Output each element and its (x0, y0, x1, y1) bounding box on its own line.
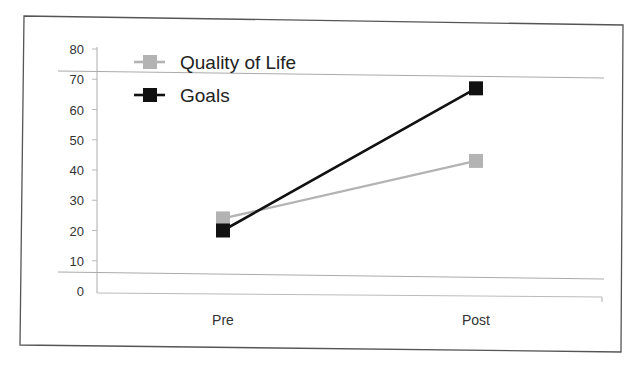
data-point-marker (216, 211, 230, 225)
series-layer (216, 81, 483, 237)
y-tick-label: 10 (70, 254, 84, 269)
y-tick-label: 80 (70, 42, 84, 57)
chart-frame (20, 16, 623, 352)
legend-label: Quality of Life (180, 52, 296, 73)
y-tick-label: 60 (70, 103, 84, 118)
y-tick-label: 40 (70, 163, 84, 178)
data-point-marker (216, 224, 230, 238)
y-tick-label: 0 (77, 284, 84, 299)
series-line (223, 88, 476, 230)
y-tick-label: 20 (70, 224, 84, 239)
y-tick-label: 50 (70, 133, 84, 148)
x-tick-label: Post (462, 312, 490, 328)
y-tick-label: 30 (70, 193, 84, 208)
legend: Quality of LifeGoals (134, 52, 296, 106)
legend-marker (143, 55, 157, 69)
legend-marker (143, 88, 157, 102)
y-tick-label: 70 (70, 72, 84, 87)
legend-label: Goals (180, 85, 230, 106)
x-axis: PrePost (97, 293, 602, 328)
line-chart: 01020304050607080 PrePost Quality of Lif… (0, 0, 643, 373)
y-axis: 01020304050607080 (70, 42, 97, 299)
x-tick-label: Pre (212, 312, 234, 328)
data-point-marker (469, 81, 483, 95)
data-point-marker (469, 154, 483, 168)
reference-lines (58, 71, 604, 279)
